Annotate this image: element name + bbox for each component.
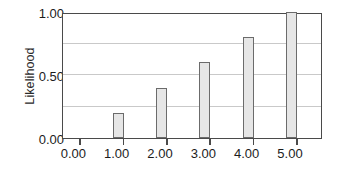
plot-area — [62, 13, 322, 139]
bar-chart: Likelihood 1.00 0.50 0.00 0.001.002.003.… — [0, 0, 347, 173]
gridline — [63, 43, 321, 44]
x-tick-mark — [209, 139, 211, 145]
y-tick-label-0: 0.00 — [4, 132, 64, 147]
x-tick-mark — [253, 139, 255, 145]
gridline — [63, 106, 321, 107]
x-tick-mark — [123, 139, 125, 145]
y-tick-label-0point5: 0.50 — [4, 69, 64, 84]
bar — [243, 37, 254, 138]
bar — [286, 12, 297, 138]
x-tick-label-5: 5.00 — [260, 146, 320, 162]
y-tick-label-1: 1.00 — [4, 6, 64, 21]
bar — [156, 88, 167, 138]
bar — [199, 62, 210, 138]
gridline — [63, 74, 321, 75]
bar — [113, 113, 124, 138]
x-tick-mark — [166, 139, 168, 145]
x-tick-mark — [296, 139, 298, 145]
x-tick-mark — [79, 139, 81, 145]
